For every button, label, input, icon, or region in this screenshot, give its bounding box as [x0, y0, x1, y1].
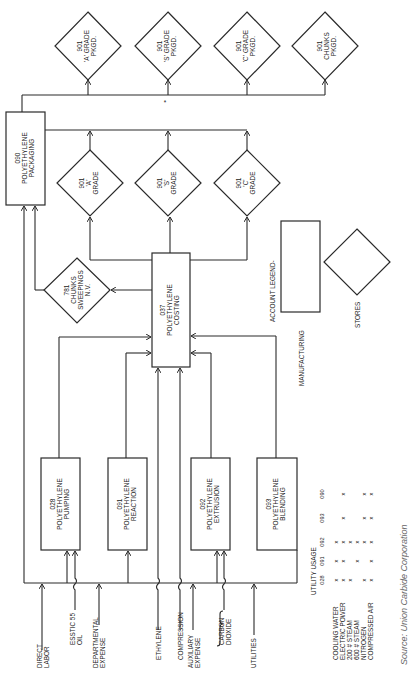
- usage-mark: x: [347, 578, 353, 581]
- account-label: POLYETHYLENE: [272, 478, 279, 530]
- costing-box: 037 POLYETHYLENE COSTING: [152, 253, 190, 367]
- usage-mark: x: [368, 559, 374, 562]
- utility-usage-table: UTILITY USAGE 028 091 092 093 090 COOLIN…: [310, 489, 409, 665]
- column-header: 091: [319, 556, 325, 566]
- ethylene-line: [157, 368, 160, 630]
- oil-line: [74, 551, 77, 610]
- packaging-box: 090 POLYETHYLENE PACKAGING: [6, 112, 45, 205]
- store-label: CHUNKS: [323, 32, 330, 60]
- asterisk-note: *: [164, 99, 167, 106]
- department-reaction: 091 POLYETHYLENE REACTION: [108, 458, 147, 550]
- table-row: COMPRESSED AIR x x x x x: [367, 492, 374, 660]
- account-code: 037: [159, 304, 166, 315]
- account-code: 093: [265, 498, 272, 509]
- account-label: PACKAGING: [28, 139, 35, 177]
- store-code: 901: [156, 40, 163, 51]
- store-code: 901: [156, 177, 163, 188]
- account-code: 028: [49, 498, 56, 509]
- grade-stores-row: 901 'A' GRADE 901 'S' GRADE 901 'C' GRAD…: [45, 130, 280, 260]
- row-label: ELECTRIC POWER: [339, 602, 346, 660]
- store-code: 901: [316, 40, 323, 51]
- table-row: NITROGEN x x x x: [360, 492, 367, 660]
- department-extrusion: 092 POLYETHYLENE EXTRUSION: [191, 458, 230, 550]
- input-label-compression: COMPRESSION: [177, 612, 184, 660]
- usage-mark: x: [340, 516, 346, 519]
- usage-mark: x: [368, 540, 374, 543]
- store-label: 'A' GRADE: [83, 30, 90, 62]
- department-blending: 093 POLYETHYLENE BLENDING: [257, 458, 297, 550]
- row-label: 200 # STEAM: [346, 620, 353, 660]
- store-chunks-pkgd: 901 CHUNKS PKGD.: [292, 12, 358, 95]
- store-c-grade-pkgd: 901 'C' GRADE PKGD.: [214, 12, 280, 95]
- table-row: COOLING WATER x x x: [332, 540, 339, 660]
- store-label: GRADE: [170, 171, 177, 194]
- row-label: NITROGEN: [360, 626, 367, 660]
- store-a-grade: 901 'A' GRADE: [57, 150, 123, 216]
- store-label: GRADE: [249, 171, 256, 194]
- input-label-departmental-expense: DEPARTMENTAL: [92, 617, 99, 668]
- usage-mark: x: [361, 578, 367, 581]
- column-header: 093: [319, 513, 325, 523]
- row-label: COMPRESSED AIR: [367, 602, 374, 660]
- usage-mark: x: [361, 540, 367, 543]
- column-header: 092: [319, 537, 325, 547]
- store-code: 901: [76, 40, 83, 51]
- legend-stores-label: STORES: [354, 302, 361, 328]
- account-label: POLYETHYLENE: [21, 132, 28, 184]
- legend-manufacturing-rect: [281, 221, 320, 312]
- column-header: 090: [319, 489, 325, 499]
- store-s-grade: 901 'S' GRADE: [135, 150, 201, 216]
- input-label-esstic-oil: OIL: [76, 634, 83, 645]
- store-label: PKGD.: [170, 36, 177, 57]
- account-code: 092: [199, 498, 206, 509]
- store-label: SWEEPINGS: [77, 270, 84, 310]
- usage-mark: x: [340, 492, 346, 495]
- input-label-carbon-dioxide: DIOXIDE: [225, 619, 232, 645]
- cost-flow-diagram: 901 'A' GRADE PKGD. 901 'S' GRADE PKGD. …: [0, 0, 409, 674]
- account-legend: ACCOUNT LEGEND- MANUFACTURING STORES: [269, 221, 390, 386]
- store-label: 'C': [242, 179, 249, 186]
- store-label: 'S': [163, 179, 170, 186]
- compression-line: [179, 368, 182, 630]
- store-code: 901: [235, 177, 242, 188]
- input-label-esstic-oil: ESSTIC 55: [69, 613, 76, 645]
- source-note: Source: Union Carbide Corporation: [399, 524, 409, 665]
- table-row: 200 # STEAM x x: [346, 540, 353, 660]
- packaged-stores-row: 901 'A' GRADE PKGD. 901 'S' GRADE PKGD. …: [22, 12, 358, 112]
- store-label: CHUNKS: [70, 276, 77, 304]
- store-label: GRADE: [92, 171, 99, 194]
- store-code: 781: [63, 284, 70, 295]
- legend-title: ACCOUNT LEGEND-: [269, 260, 276, 322]
- store-code: 901: [235, 40, 242, 51]
- table-row: ELECTRIC POWER x x x x x: [339, 492, 346, 660]
- store-label: PKGD.: [90, 36, 97, 57]
- utility-usage-title: UTILITY USAGE: [310, 547, 317, 595]
- usage-mark: x: [340, 540, 346, 543]
- store-label: N.V.: [84, 284, 91, 296]
- account-label: BLENDING: [279, 487, 286, 520]
- store-c-grade: 901 'C' GRADE: [214, 150, 280, 216]
- input-labels: DIRECT LABOR ESSTIC 55 OIL DEPARTMENTAL …: [36, 611, 257, 668]
- input-label-direct-labor: DIRECT: [36, 644, 43, 668]
- input-label-utilities: UTILITIES: [250, 638, 257, 668]
- usage-mark: x: [354, 540, 360, 543]
- account-label: POLYETHYLENE: [166, 284, 173, 336]
- store-label: 'S' GRADE: [163, 30, 170, 62]
- account-code: 091: [116, 498, 123, 509]
- usage-mark: x: [368, 578, 374, 581]
- carbon-dioxide-line: [223, 551, 226, 610]
- input-label-auxiliary-expense: EXPENSE: [194, 638, 201, 668]
- usage-mark: x: [333, 540, 339, 543]
- usage-mark: x: [340, 559, 346, 562]
- account-label: POLYETHYLENE: [206, 478, 213, 530]
- usage-mark: x: [361, 492, 367, 495]
- input-label-auxiliary-expense: AUXILIARY: [187, 634, 194, 668]
- store-label: PKGD.: [249, 36, 256, 57]
- store-label: PKGD.: [330, 36, 337, 57]
- input-label-ethylene: ETHYLENE: [155, 626, 162, 660]
- account-label: POLYETHYLENE: [123, 478, 130, 530]
- usage-mark: x: [340, 578, 346, 581]
- store-s-grade-pkgd: 901 'S' GRADE PKGD.: [135, 12, 201, 95]
- account-label: REACTION: [130, 487, 137, 521]
- usage-mark: x: [361, 516, 367, 519]
